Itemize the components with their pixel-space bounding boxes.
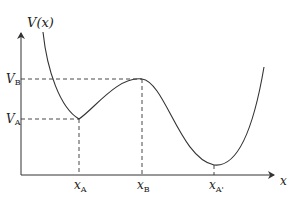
xa-prime-label: xA' xyxy=(209,178,224,194)
guide-lines xyxy=(21,79,214,175)
xb-label: xB xyxy=(137,178,150,194)
y-axis-label: V(x) xyxy=(27,15,54,30)
diagram-canvas: V(x) x VB VA xA xB xA' xyxy=(0,0,294,210)
vb-label: VB xyxy=(6,72,21,87)
potential-curve xyxy=(43,32,264,165)
xa-label: xA xyxy=(74,178,87,194)
x-axis-label: x xyxy=(280,174,287,188)
va-label: VA xyxy=(6,112,21,127)
potential-energy-diagram: V(x) x VB VA xA xB xA' xyxy=(0,0,294,210)
